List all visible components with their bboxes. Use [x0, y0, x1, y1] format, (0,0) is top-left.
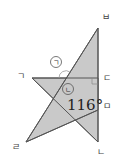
point-label-rieul: ㄹ [12, 142, 20, 152]
point-label-bieup: ㅂ [102, 12, 110, 22]
point-label-mieum: ㅁ [103, 101, 111, 111]
point-label-nieun: ㄴ [97, 147, 105, 157]
circled-marker-a-label: ㄱ [53, 59, 59, 67]
point-label-giyeok: ㄱ [17, 71, 25, 81]
angle-value: 116° [67, 96, 103, 114]
circled-marker-b-label: ㄴ [65, 86, 71, 94]
point-label-digeut: ㄷ [103, 73, 111, 83]
geometry-diagram: ㄱ ㄴ 116° ㅂ ㄱ ㄷ ㅁ ㄹ ㄴ [0, 0, 123, 166]
